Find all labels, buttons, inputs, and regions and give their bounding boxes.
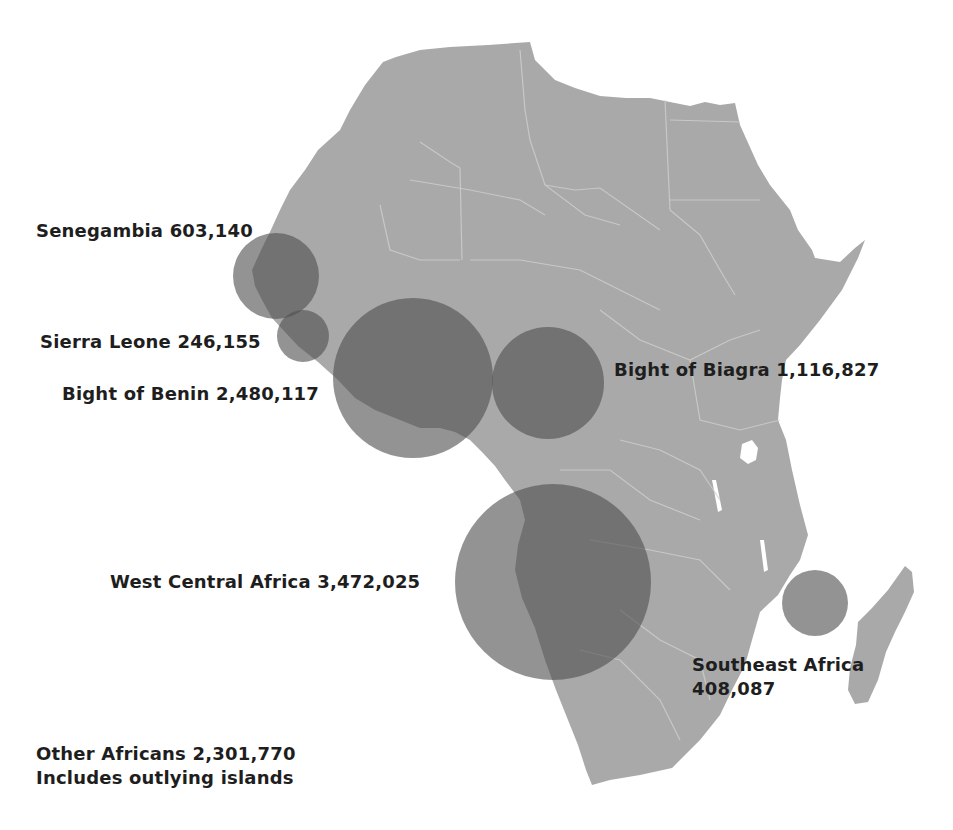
circle-west-central-africa [455, 484, 651, 680]
madagascar-landmass [848, 566, 914, 704]
label-senegambia: Senegambia 603,140 [36, 219, 253, 243]
label-bight-of-benin: Bight of Benin 2,480,117 [62, 382, 319, 406]
label-southeast-africa-name: Southeast Africa [692, 653, 864, 677]
label-west-central-africa: West Central Africa 3,472,025 [110, 570, 420, 594]
label-other-africans-note: Includes outlying islands [36, 766, 294, 790]
label-bight-of-biagra: Bight of Biagra 1,116,827 [614, 358, 879, 382]
label-other-africans: Other Africans 2,301,770 [36, 742, 296, 766]
circle-bight-of-benin [333, 298, 493, 458]
label-sierra-leone: Sierra Leone 246,155 [40, 330, 261, 354]
circle-southeast-africa [782, 570, 848, 636]
circle-bight-of-biagra [492, 327, 604, 439]
circle-senegambia [233, 233, 319, 319]
africa-map [0, 0, 953, 830]
circle-sierra-leone [277, 310, 329, 362]
label-southeast-africa-value: 408,087 [692, 677, 775, 701]
